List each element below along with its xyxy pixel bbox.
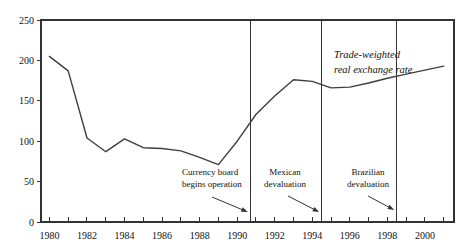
y-tick-label: 150 (19, 95, 34, 106)
annotation-brazilian-devaluation: Brazilian devaluation (341, 167, 395, 190)
annotation-currency-board-line1: Currency board (182, 167, 242, 179)
annotation-arrow-line (212, 197, 244, 210)
annotation-mexican-devaluation: Mexican devaluation (258, 167, 312, 190)
x-tick-label: 1990 (227, 230, 247, 241)
annotation-arrowhead (312, 207, 319, 212)
annotation-mexican-line1: Mexican (258, 167, 312, 179)
x-tick-label: 2000 (415, 230, 435, 241)
annotation-arrow-line (288, 196, 316, 210)
x-tick-label: 1994 (302, 230, 322, 241)
y-tick-label: 250 (19, 15, 34, 26)
series-label: Trade-weighted real exchange rate (334, 47, 412, 77)
y-tick-label: 100 (19, 136, 34, 147)
y-tick-label: 0 (29, 217, 34, 228)
x-tick-label: 1986 (152, 230, 172, 241)
y-tick-label: 50 (24, 176, 34, 187)
annotation-currency-board: Currency board begins operation (182, 167, 242, 190)
chart-figure: 0501001502002501980198219841986198819901… (0, 0, 470, 252)
chart-canvas: 0501001502002501980198219841986198819901… (0, 0, 470, 252)
x-tick-label: 1988 (190, 230, 210, 241)
x-tick-label: 1980 (39, 230, 59, 241)
x-tick-label: 1984 (115, 230, 135, 241)
series-label-line2: real exchange rate (334, 62, 412, 77)
annotation-mexican-line2: devaluation (258, 179, 312, 191)
x-tick-label: 1998 (377, 230, 397, 241)
annotation-currency-board-line2: begins operation (182, 179, 242, 191)
annotation-brazilian-line2: devaluation (341, 179, 395, 191)
y-tick-label: 200 (19, 55, 34, 66)
annotation-arrowhead (387, 205, 394, 210)
x-tick-label: 1982 (77, 230, 97, 241)
series-label-line1: Trade-weighted (334, 47, 412, 62)
x-tick-label: 1996 (340, 230, 360, 241)
x-tick-label: 1992 (265, 230, 285, 241)
annotation-arrow-line (368, 196, 391, 208)
annotation-brazilian-line1: Brazilian (341, 167, 395, 179)
annotation-arrowhead (241, 207, 248, 212)
